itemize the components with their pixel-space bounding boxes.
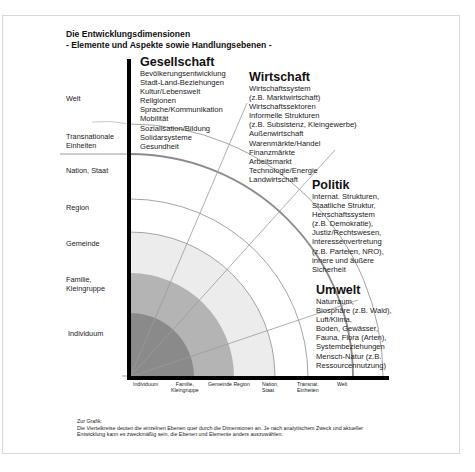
dimension-heading: Wirtschaft (249, 70, 357, 84)
dimension-politik: Politik Internat. Strukturen, Staatliche… (312, 178, 384, 274)
dimension-item: Technologie/Energie (249, 166, 357, 175)
dimension-item: Warenmärkte/Handel (249, 139, 357, 148)
dimension-item: Interessenvertretung (312, 237, 384, 246)
dimension-item: Internat. Strukturen, (312, 192, 384, 201)
dimension-item: Boden, Gewässer, (316, 324, 392, 333)
dimension-item: Kultur/Lebenswelt (140, 87, 226, 96)
dimension-item: Wirtschaftssektoren (249, 102, 357, 111)
level-text: Transnationale (66, 132, 114, 141)
axis-text: Welt (337, 381, 347, 387)
axis-label-gemeinde-region: Gemeinde Region (208, 381, 250, 387)
dimension-item: Herrschaftssystem (312, 210, 384, 219)
dimension-item: Außenwirtschaft (249, 129, 357, 138)
dimension-item: (z.B. Marktwirtschaft) (249, 93, 357, 102)
dimension-item: Informelle Strukturen (249, 111, 357, 120)
dimension-item: (z.B. Demokratie), (312, 219, 384, 228)
quarter-circle-diagram (0, 0, 475, 472)
dimension-item: Stadt-Land-Beziehungen (140, 78, 226, 87)
dimension-item: Bevölkerungsentwicklung (140, 69, 226, 78)
axis-text: Gemeinde Region (208, 381, 250, 387)
dimension-item: Ressourcennutzung) (316, 361, 392, 370)
dimension-item: (z.B. Subsistenz, Kleingewerbe) (249, 120, 357, 129)
dimension-item: Justiz/Rechtswesen, (312, 228, 384, 237)
level-text: Region (66, 203, 89, 212)
level-text: Familie, (66, 275, 105, 284)
dimension-heading: Politik (312, 178, 384, 192)
axis-text-2: Einheiten (297, 387, 319, 393)
level-label-transnational: Transnationale Einheiten (66, 132, 114, 150)
axis-label-individuum: Individuum (133, 381, 158, 387)
dimension-item: innere und äußere (312, 256, 384, 265)
level-label-individuum: Individuum (68, 329, 103, 338)
axis-label-welt: Welt (337, 381, 347, 387)
dimension-item: Mobilität (140, 114, 226, 123)
level-text: Welt (66, 94, 80, 103)
level-label-region: Region (66, 203, 89, 212)
axis-label-transnational: Transnat. Einheiten (297, 381, 319, 393)
dimension-item: Sicherheit (312, 265, 384, 274)
dimension-item: Fauna, Flora (Arten), (316, 333, 392, 342)
dimension-item: Gesundheit (140, 142, 226, 151)
level-label-familie: Familie, Kleingruppe (66, 275, 105, 293)
level-text-2: Kleingruppe (66, 284, 105, 293)
dimension-item: Biosphäre (z.B. Wald), (316, 306, 392, 315)
arc-welt-upper (92, 121, 130, 124)
axis-text: Individuum (133, 381, 158, 387)
dimension-wirtschaft: Wirtschaft Wirtschaftssystem (z.B. Markt… (249, 70, 357, 184)
vertical-axis (127, 59, 131, 380)
axis-text-2: Kleingruppe (171, 387, 199, 393)
dimension-item: Wirtschaftssystem (249, 84, 357, 93)
level-text-2: Einheiten (66, 141, 114, 150)
dimension-item: Religionen (140, 96, 226, 105)
dimension-umwelt: Umwelt Naturraum, Biosphäre (z.B. Wald),… (316, 283, 392, 370)
level-label-gemeinde: Gemeinde (66, 239, 100, 248)
footnote-text: Die Viertelkreise deuten die einzelnen E… (77, 425, 377, 438)
level-text: Gemeinde (66, 239, 100, 248)
dimension-item: Luft/Klima, (316, 315, 392, 324)
level-text: Individuum (68, 329, 103, 338)
dimension-heading: Gesellschaft (140, 55, 226, 69)
dimension-item: Solidarsysteme (140, 133, 226, 142)
dimension-item: Naturraum, (316, 297, 392, 306)
level-label-nation: Nation, Staat (66, 166, 108, 175)
dimension-item: (z.B. Parteien, NRO), (312, 247, 384, 256)
axis-text-2: Staat (262, 387, 278, 393)
level-text: Nation, Staat (66, 166, 108, 175)
dimension-item: Mensch-Natur (z.B. (316, 352, 392, 361)
dimension-heading: Umwelt (316, 283, 392, 297)
level-label-welt: Welt (66, 94, 80, 103)
horizontal-axis (127, 376, 389, 380)
dimension-gesellschaft: Gesellschaft Bevölkerungsentwicklung Sta… (140, 55, 226, 151)
dimension-item: Staatliche Struktur, (312, 201, 384, 210)
dimension-item: Arbeitsmarkt (249, 157, 357, 166)
dimension-item: Sprache/Kommunikation (140, 105, 226, 114)
footnote-heading: Zur Grafik: (77, 418, 377, 425)
axis-label-familie: Familie, Kleingruppe (171, 381, 199, 393)
axis-label-nation: Nation, Staat (262, 381, 278, 393)
dimension-item: Systembeziehungen (316, 342, 392, 351)
footnote: Zur Grafik: Die Viertelkreise deuten die… (77, 418, 377, 438)
dimension-item: Finanzmärkte (249, 148, 357, 157)
dimension-item: Sozialisation/Bildung (140, 124, 226, 133)
